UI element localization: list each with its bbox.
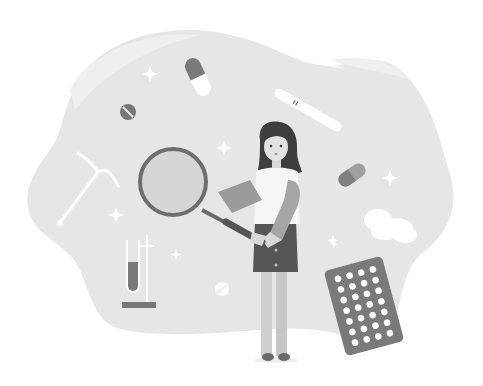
round-tablet-bottom — [215, 282, 229, 296]
round-tablet-left — [120, 104, 136, 120]
illustration-canvas: Woman examining contraceptive options wi… — [0, 0, 483, 386]
